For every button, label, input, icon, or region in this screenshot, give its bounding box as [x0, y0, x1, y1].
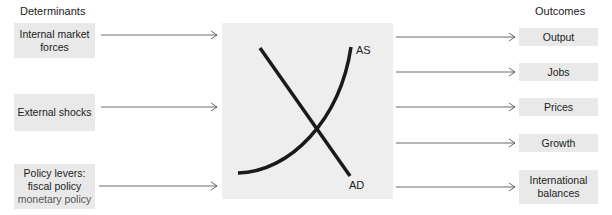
ad-label: AD — [349, 179, 364, 191]
as-label: AS — [356, 44, 371, 56]
output-arrows — [396, 33, 515, 191]
diagram-graphics: AS AD — [0, 0, 612, 215]
input-arrows — [99, 31, 217, 190]
